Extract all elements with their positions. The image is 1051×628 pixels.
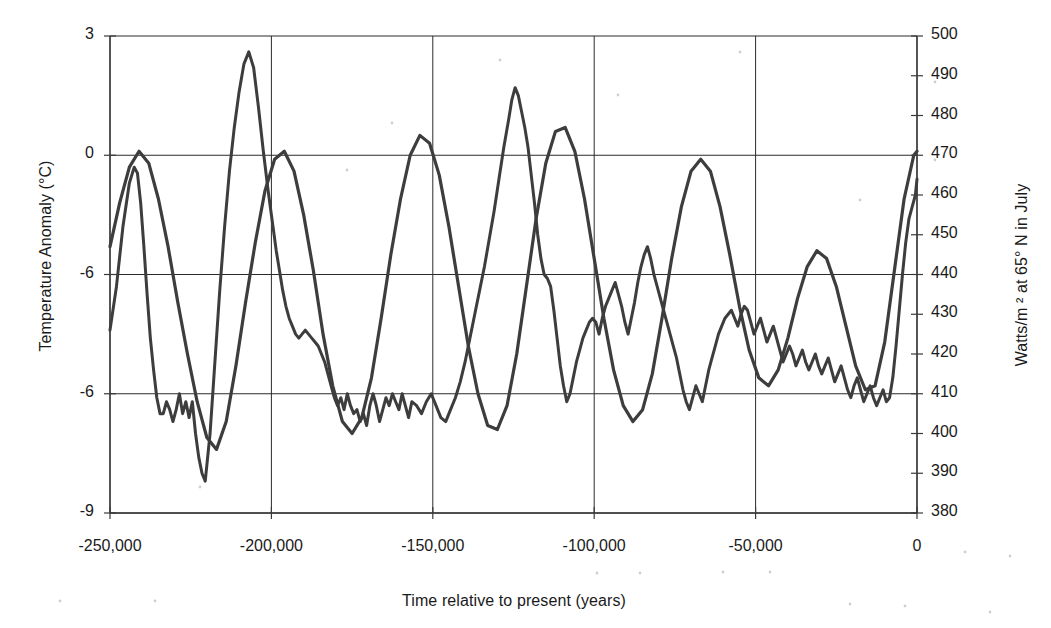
- y-tick-right-4: 460: [931, 184, 991, 202]
- y-tick-right-8: 420: [931, 343, 991, 361]
- y-tick-left-1: 0: [34, 144, 94, 162]
- grid-lines: [110, 36, 917, 513]
- chart-figure: Temperature Anomaly (°C) Watts/m ² at 65…: [0, 0, 1051, 628]
- y-tick-right-9: 410: [931, 383, 991, 401]
- scan-artifacts: [59, 51, 1012, 614]
- y-tick-right-11: 390: [931, 462, 991, 480]
- x-tick-3: -100,000: [534, 537, 654, 555]
- x-tick-1: -200,000: [211, 537, 331, 555]
- y-tick-left-0: 3: [34, 25, 94, 43]
- y-tick-left-3: -6: [34, 383, 94, 401]
- series-temperature: [110, 52, 917, 481]
- y-tick-right-12: 380: [931, 502, 991, 520]
- y-tick-right-1: 490: [931, 65, 991, 83]
- y-axis-label-left: Temperature Anomaly (°C): [34, 0, 58, 516]
- y-tick-right-7: 430: [931, 303, 991, 321]
- y-axis-label-right: Watts/m ² at 65° N in July: [1010, 25, 1034, 525]
- y-tick-right-0: 500: [931, 25, 991, 43]
- y-tick-right-2: 480: [931, 105, 991, 123]
- tick-marks: [104, 36, 923, 519]
- y-tick-right-10: 400: [931, 423, 991, 441]
- series-insolation: [110, 127, 917, 449]
- x-axis-label: Time relative to present (years): [110, 592, 918, 610]
- x-tick-4: -50,000: [696, 537, 816, 555]
- chart-plot-area: [0, 0, 1051, 628]
- x-tick-2: -150,000: [373, 537, 493, 555]
- x-tick-5: 0: [857, 537, 977, 555]
- y-tick-right-3: 470: [931, 144, 991, 162]
- y-tick-left-2: -6: [34, 264, 94, 282]
- data-series: [110, 52, 917, 481]
- y-tick-right-5: 450: [931, 224, 991, 242]
- y-tick-left-4: -9: [34, 502, 94, 520]
- y-tick-right-6: 440: [931, 264, 991, 282]
- x-tick-0: -250,000: [50, 537, 170, 555]
